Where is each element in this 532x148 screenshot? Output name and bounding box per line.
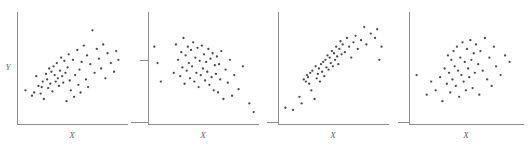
data-point <box>199 60 201 62</box>
data-point <box>303 78 305 80</box>
panel-1-points <box>24 29 119 102</box>
data-point <box>317 73 319 75</box>
data-point <box>182 37 184 39</box>
data-point <box>333 52 335 54</box>
data-point <box>344 51 346 53</box>
data-point <box>156 62 158 64</box>
data-point <box>33 91 35 93</box>
data-point <box>334 59 336 61</box>
data-point <box>216 55 218 57</box>
data-point <box>77 84 79 86</box>
data-point <box>210 76 212 78</box>
panel-2-svg: X <box>131 0 263 148</box>
data-point <box>488 56 490 58</box>
data-point <box>462 80 464 82</box>
data-point <box>233 74 235 76</box>
panel-1-axis-lines <box>18 12 129 125</box>
data-point <box>474 72 476 74</box>
data-point <box>461 41 463 43</box>
data-point <box>470 59 472 61</box>
data-point <box>42 80 44 82</box>
data-point <box>73 96 75 98</box>
scatterplot-figure: X Y X X <box>0 0 532 148</box>
data-point <box>504 54 506 56</box>
data-point <box>365 43 367 45</box>
data-point <box>313 98 315 100</box>
data-point <box>115 50 117 52</box>
data-point <box>465 89 467 91</box>
data-point <box>61 75 63 77</box>
data-point <box>380 46 382 48</box>
data-point <box>218 63 220 65</box>
data-point <box>237 88 239 90</box>
data-point <box>96 48 98 50</box>
panel-4-points <box>415 37 510 103</box>
data-point <box>360 39 362 41</box>
data-point <box>187 46 189 48</box>
data-point <box>86 54 88 56</box>
data-point <box>456 46 458 48</box>
data-point <box>426 94 428 96</box>
data-point <box>447 54 449 56</box>
data-point <box>80 61 82 63</box>
data-point <box>70 89 72 91</box>
panel-3-svg: X <box>261 0 393 148</box>
data-point <box>37 85 39 87</box>
data-point <box>179 75 181 77</box>
data-point <box>214 64 216 66</box>
data-point <box>160 80 162 82</box>
data-point <box>215 73 217 75</box>
data-point <box>321 71 323 73</box>
data-point <box>346 37 348 39</box>
data-point <box>195 72 197 74</box>
data-point <box>490 85 492 87</box>
data-point <box>451 78 453 80</box>
data-point <box>242 65 244 67</box>
data-point <box>175 43 177 45</box>
data-point <box>452 50 454 52</box>
data-point <box>338 48 340 50</box>
data-point <box>41 86 43 88</box>
panel-2-x-axis-label: X <box>199 130 206 140</box>
data-point <box>469 39 471 41</box>
data-point <box>253 111 255 113</box>
data-point <box>205 61 207 63</box>
data-point <box>468 76 470 78</box>
data-point <box>229 59 231 61</box>
data-point <box>460 74 462 76</box>
panel-3-axis-lines <box>279 12 390 125</box>
data-point <box>326 54 328 56</box>
data-point <box>311 70 313 72</box>
panel-3-x-axis-label: X <box>329 130 336 140</box>
data-point <box>482 70 484 72</box>
data-point <box>177 59 179 61</box>
data-point <box>200 74 202 76</box>
data-point <box>206 71 208 73</box>
data-point <box>78 68 80 70</box>
data-point <box>69 79 71 81</box>
data-point <box>298 96 300 98</box>
data-point <box>324 59 326 61</box>
data-point <box>31 95 33 97</box>
data-point <box>248 102 250 104</box>
data-point <box>443 67 445 69</box>
data-point <box>102 43 104 45</box>
data-point <box>89 63 91 65</box>
data-point <box>319 80 321 82</box>
data-point <box>53 74 55 76</box>
data-point <box>307 76 309 78</box>
data-point <box>323 75 325 77</box>
data-point <box>181 66 183 68</box>
data-point <box>466 48 468 50</box>
data-point <box>415 74 417 76</box>
data-point <box>76 49 78 51</box>
data-point <box>352 41 354 43</box>
data-point <box>62 82 64 84</box>
data-point <box>363 26 365 28</box>
data-point <box>194 56 196 58</box>
data-point <box>104 77 106 79</box>
data-point <box>209 58 211 60</box>
panel-1-x-axis-label: X <box>68 130 75 140</box>
data-point <box>284 107 286 109</box>
data-point <box>188 62 190 64</box>
